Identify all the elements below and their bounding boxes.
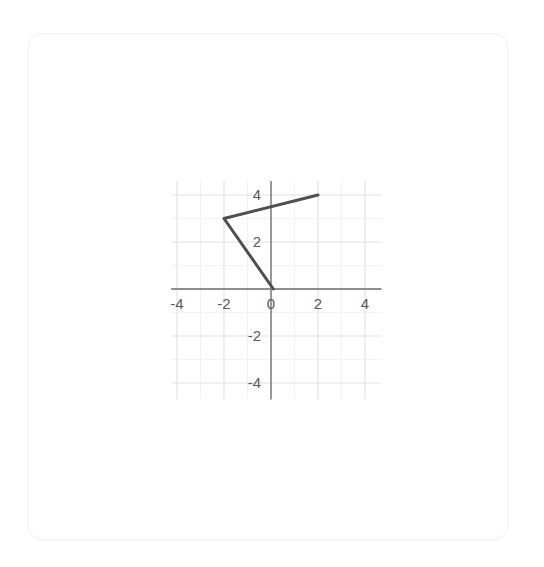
axis-lines (171, 181, 381, 400)
x-tick-label: 4 (361, 295, 369, 312)
x-tick-label: 2 (314, 295, 322, 312)
graph-card: -4-202442-2-4 (28, 33, 508, 540)
y-tick-label: -4 (248, 374, 261, 391)
x-tick-label: -4 (170, 295, 183, 312)
x-tick-label: -2 (217, 295, 230, 312)
grid-major-lines (171, 181, 381, 400)
clipped-header-strip: · ·· · · · (0, 0, 544, 12)
clipped-header-text: · ·· · · · (62, 0, 102, 3)
coordinate-plane: -4-202442-2-4 (29, 34, 509, 541)
y-tick-label: 2 (253, 233, 261, 250)
y-tick-label: -2 (248, 327, 261, 344)
grid-minor-lines (171, 181, 381, 400)
y-tick-label: 4 (253, 186, 261, 203)
x-tick-label: 0 (267, 295, 275, 312)
coordinate-plane-svg: -4-202442-2-4 (29, 34, 509, 541)
